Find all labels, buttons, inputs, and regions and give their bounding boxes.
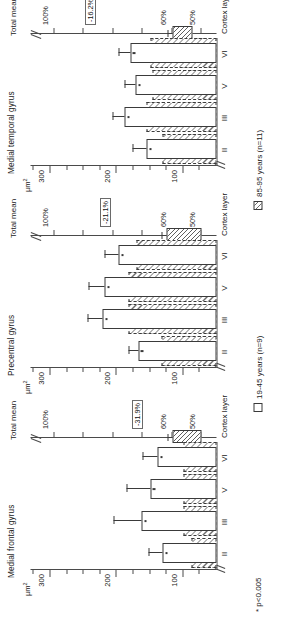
legend-item-old: 85-95 years (n=11) <box>253 130 263 210</box>
total-mean-error-cap <box>167 30 168 37</box>
y-axis-minor-tick <box>132 165 133 170</box>
total-mean-tick-80 <box>112 230 113 236</box>
total-mean-tick-70 <box>141 432 142 438</box>
y-axis-unit: µm2 <box>21 179 31 192</box>
y-axis-minor-tick <box>198 569 199 574</box>
x-tick-label-III: III <box>219 115 228 122</box>
y-axis-minor-tick <box>32 165 33 170</box>
bar-young-VI <box>118 245 216 264</box>
total-mean-label-60: 60% <box>158 414 167 429</box>
plot-area-0 <box>30 441 216 569</box>
error-bar-V <box>126 488 150 489</box>
panel-medial-frontal-gyrus: Medial frontal gyrus µm2 100200300 IIIII… <box>0 418 291 614</box>
total-mean-tick-90 <box>82 432 83 438</box>
error-bar-cap <box>113 517 114 525</box>
y-axis-minor-tick <box>32 569 33 574</box>
legend-swatch-open-icon <box>253 403 262 412</box>
error-bar-II <box>148 552 163 553</box>
error-bar-cap <box>118 49 119 57</box>
x-tick-label-II: II <box>219 148 228 152</box>
y-axis-major-tick <box>115 165 116 173</box>
y-axis-tick-label: 100 <box>169 372 178 385</box>
x-axis-tick-labels-2: IIIIIVVI <box>219 38 233 166</box>
total-mean-axis-break-icon <box>30 28 42 40</box>
total-mean-label-50: 50% <box>188 414 197 429</box>
figure-rotation-wrapper: Medial frontal gyrus µm2 100200300 IIIII… <box>0 0 291 620</box>
bar-young-VI <box>157 447 216 466</box>
y-axis-minor-tick <box>82 367 83 372</box>
total-mean-tick-80 <box>112 432 113 438</box>
total-mean-label-60: 60% <box>158 212 167 227</box>
panel-title: Precentral gyrus <box>6 315 15 376</box>
x-axis-title: Cortex layer <box>219 0 228 34</box>
x-tick-label-III: III <box>219 317 228 324</box>
y-axis-tick-label: 300 <box>36 170 45 183</box>
significance-marker-II <box>149 148 151 150</box>
significance-marker-II <box>165 552 167 554</box>
bar-young-III <box>102 309 216 328</box>
error-bar-VI <box>118 52 129 53</box>
error-bar-cap <box>126 485 127 493</box>
total-mean-error-bar <box>161 235 166 236</box>
panel-medial-temporal-gyrus: Medial temporal gyrus µm2 100200300 IIII… <box>0 14 291 210</box>
plot-area-1 <box>30 239 216 367</box>
x-tick-label-VI: VI <box>219 454 228 462</box>
error-bar-V <box>88 286 104 287</box>
y-axis-minor-tick <box>99 367 100 372</box>
figure-canvas: Medial frontal gyrus µm2 100200300 IIIII… <box>0 0 291 620</box>
significance-marker-III <box>144 520 146 522</box>
y-axis-minor-tick <box>66 367 67 372</box>
y-axis-minor-tick <box>198 165 199 170</box>
total-mean-title: Total mean <box>8 0 17 36</box>
bar-young-V <box>150 479 216 498</box>
total-mean-change-label: -16.2% <box>85 0 96 25</box>
y-axis-tick-label: 200 <box>103 170 112 183</box>
y-axis-tick-label: 300 <box>36 372 45 385</box>
bar-young-VI <box>130 43 216 62</box>
x-tick-label-VI: VI <box>219 252 228 260</box>
total-mean-axis-break-icon <box>30 230 42 242</box>
total-mean-label-100: 100% <box>40 6 49 25</box>
significance-marker-III <box>127 116 129 118</box>
total-mean-tick-80 <box>112 28 113 34</box>
y-axis-minor-tick <box>132 367 133 372</box>
total-mean-axis-0: Total mean 100%60%50%-31.9% <box>30 424 216 438</box>
total-mean-bar <box>172 430 202 443</box>
total-mean-label-100: 100% <box>40 208 49 227</box>
y-axis-minor-tick <box>198 367 199 372</box>
y-axis-minor-tick <box>32 367 33 372</box>
total-mean-tick-70 <box>141 28 142 34</box>
total-mean-label-60: 60% <box>158 10 167 25</box>
error-bar-III <box>112 116 124 117</box>
y-axis-minor-tick <box>149 569 150 574</box>
total-mean-axis-1: Total mean 100%60%50%-21.1% <box>30 222 216 236</box>
y-axis-major-tick <box>49 165 50 173</box>
error-bar-cap <box>128 347 129 355</box>
bar-young-II <box>146 139 216 158</box>
significance-marker-II <box>140 350 142 352</box>
x-tick-label-V: V <box>219 285 228 290</box>
error-bar-V <box>124 84 135 85</box>
significance-marker-III <box>105 318 107 320</box>
total-mean-axis-2: Total mean 100%60%50%-16.2% <box>30 20 216 34</box>
y-axis-minor-tick <box>165 165 166 170</box>
total-mean-tick-90 <box>82 28 83 34</box>
error-bar-III <box>113 520 141 521</box>
total-mean-tick-100 <box>53 28 54 34</box>
y-axis: 100200300 <box>30 367 216 368</box>
y-axis-tick-label: 300 <box>36 574 45 587</box>
y-axis-minor-tick <box>132 569 133 574</box>
y-axis-minor-tick <box>165 367 166 372</box>
error-bar-cap <box>142 453 143 461</box>
error-bar-cap <box>148 549 149 557</box>
y-axis-major-tick <box>182 165 183 173</box>
bar-young-V <box>104 277 216 296</box>
significance-marker-VI <box>132 52 134 54</box>
x-axis-tick-labels-0: IIIIIVVI <box>219 442 233 570</box>
figure-legend: 19-45 years (n=9) 85-95 years (n=11) <box>253 8 287 612</box>
error-bar-II <box>132 148 147 149</box>
y-axis-minor-tick <box>99 165 100 170</box>
legend-item-young: 19-45 years (n=9) <box>253 336 263 412</box>
error-bar-VI <box>104 254 119 255</box>
significance-marker-VI <box>160 456 162 458</box>
